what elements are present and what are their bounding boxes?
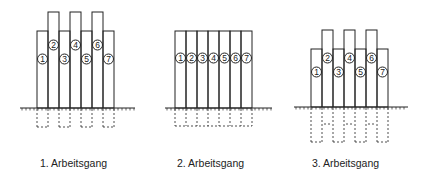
wall-panel-6: 6 [366,30,377,107]
wall-panel-1: 1 [175,31,186,108]
wall-panel-3: 3 [197,31,208,108]
wall-panel-1: 1 [311,49,322,107]
svg-text:5: 5 [358,67,363,77]
svg-text:6: 6 [369,53,374,63]
svg-text:1: 1 [178,53,183,63]
svg-text:6: 6 [95,40,100,50]
svg-text:5: 5 [84,54,89,64]
foundation-dashed [175,109,252,126]
wall-panel-7: 7 [241,31,252,108]
panel-step-3: 1234567 [294,30,408,142]
caption-step-3: 3. Arbeitsgang [312,157,379,169]
svg-text:2: 2 [325,53,330,63]
wall-panel-4: 4 [208,31,219,108]
wall-panel-5: 5 [219,31,230,108]
wall-panel-6: 6 [230,31,241,108]
svg-text:3: 3 [336,67,341,77]
wall-panel-7: 7 [103,31,114,108]
wall-panel-4: 4 [344,30,355,107]
wall-panel-7: 7 [377,49,388,107]
wall-panel-6: 6 [92,12,103,108]
svg-text:4: 4 [211,53,216,63]
svg-text:6: 6 [233,53,238,63]
wall-panel-5: 5 [81,31,92,108]
svg-text:7: 7 [106,54,111,64]
svg-text:4: 4 [73,40,78,50]
wall-panel-2: 2 [322,30,333,107]
panel-step-1: 1234567 [20,12,135,127]
wall-panel-4: 4 [70,12,81,108]
caption-step-2: 2. Arbeitsgang [177,157,244,169]
svg-text:3: 3 [62,54,67,64]
svg-text:7: 7 [244,53,249,63]
foundation-dashed [37,109,115,127]
svg-text:1: 1 [314,67,319,77]
construction-sequence-diagram: 123456712345671234567 [0,0,422,182]
wall-panel-3: 3 [59,31,70,108]
wall-panel-5: 5 [355,49,366,107]
panel-step-2: 1234567 [165,31,272,126]
wall-panel-1: 1 [37,31,48,108]
svg-text:4: 4 [347,53,352,63]
svg-text:2: 2 [51,40,56,50]
svg-text:7: 7 [380,67,385,77]
wall-panel-3: 3 [333,49,344,107]
wall-panel-2: 2 [186,31,197,108]
svg-text:5: 5 [222,53,227,63]
svg-text:3: 3 [200,53,205,63]
svg-text:1: 1 [40,54,45,64]
caption-step-1: 1. Arbeitsgang [40,157,107,169]
foundation-dashed [311,108,389,142]
svg-text:2: 2 [189,53,194,63]
wall-panel-2: 2 [48,12,59,108]
